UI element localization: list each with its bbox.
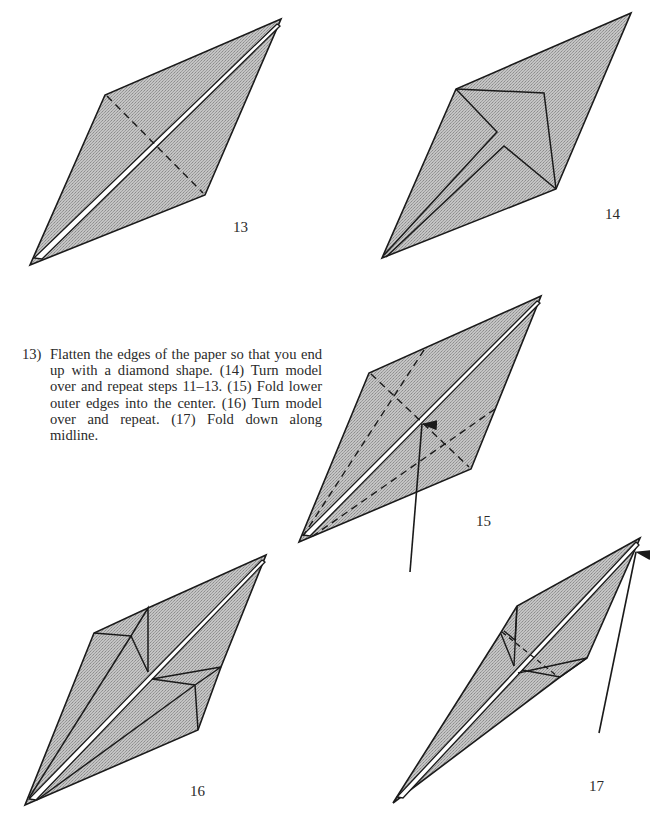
figure-16 — [25, 555, 266, 805]
instruction-step-number: 13) — [22, 346, 41, 362]
step-label-16: 16 — [190, 783, 205, 800]
step-label-14: 14 — [605, 206, 620, 223]
figure-15 — [299, 296, 541, 572]
center-slit — [397, 542, 639, 798]
instruction-text: Flatten the edges of the paper so that y… — [50, 346, 322, 443]
center-slit — [29, 560, 265, 800]
diamond-shape — [382, 13, 631, 258]
step-label-17: 17 — [589, 778, 604, 795]
center-slit — [303, 301, 540, 536]
figure-17 — [393, 538, 640, 803]
step-label-13: 13 — [233, 219, 248, 236]
step-label-15: 15 — [476, 513, 491, 530]
figure-14 — [382, 13, 631, 258]
